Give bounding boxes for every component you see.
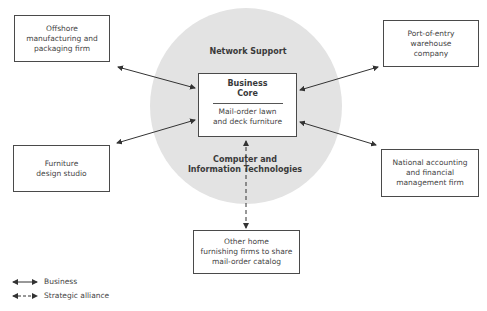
legend-business-label: Business bbox=[44, 277, 77, 286]
arrow-offshore-core bbox=[118, 67, 195, 88]
connector-arrows bbox=[0, 0, 487, 311]
legend-alliance-label: Strategic alliance bbox=[44, 291, 109, 300]
alliance-arrow-icon bbox=[10, 292, 40, 300]
arrow-port-core bbox=[300, 67, 378, 90]
business-arrow-icon bbox=[10, 278, 40, 286]
legend-alliance: Strategic alliance bbox=[10, 291, 109, 300]
legend-business: Business bbox=[10, 277, 77, 286]
arrow-furniture-design-core bbox=[117, 120, 195, 143]
arrow-accounting-core bbox=[300, 122, 376, 145]
